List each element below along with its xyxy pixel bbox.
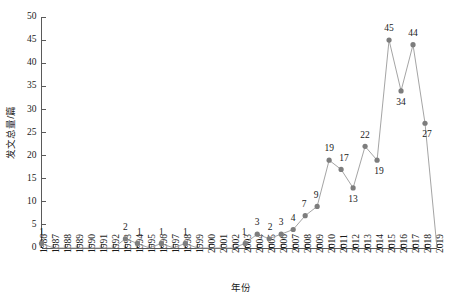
x-tick-label: 2013 [363,234,373,253]
x-tick-label: 1990 [87,234,97,253]
x-tick-label: 2000 [207,234,217,253]
series-data-point [123,236,128,241]
series-data-point [315,204,320,209]
data-point-value-label: 3 [255,217,260,227]
y-tick-label: 50 [27,11,37,21]
publication-count-line-chart: 05101520253035404550 1986198719881989199… [0,0,450,299]
y-tick-label: 10 [27,196,37,206]
x-tick-label: 2011 [339,234,349,253]
series-data-point [327,158,332,163]
data-point-value-label: 13 [348,194,358,204]
data-point-value-label: 17 [339,153,349,163]
data-point-value-label: 19 [374,166,384,176]
data-point-value-label: 44 [408,28,418,38]
series-data-point [303,213,308,218]
x-tick-label: 2018 [423,234,433,253]
x-tick-label: 2017 [411,234,421,253]
data-point-value-label: 9 [314,190,319,200]
y-tick-label: 40 [27,57,37,67]
x-tick-label: 1989 [75,234,85,253]
series-data-point [374,158,379,163]
data-point-value-label: 34 [396,97,406,107]
x-axis-title: 年份 [231,282,251,293]
series-data-point [255,232,260,237]
chart-background [0,0,450,299]
series-data-point [243,241,248,246]
series-data-point [279,232,284,237]
series-data-point [135,241,140,246]
x-tick-label: 2002 [231,234,241,253]
y-tick-label: 25 [27,127,37,137]
series-data-point [183,241,188,246]
series-data-point [339,167,344,172]
data-point-value-label: 2 [268,222,273,232]
x-tick-label: 1997 [171,234,181,253]
x-tick-label: 1988 [63,234,73,253]
data-point-value-label: 1 [39,227,44,237]
series-data-point [422,121,427,126]
data-point-value-label: 3 [279,217,284,227]
data-point-value-label: 1 [137,227,142,237]
y-tick-label: 5 [32,219,37,229]
data-point-value-label: 4 [291,213,296,223]
series-data-point [291,227,296,232]
y-tick-label: 45 [27,34,37,44]
series-data-point [351,185,356,190]
x-tick-label: 2006 [279,234,289,253]
x-tick-label: 2015 [387,234,397,253]
y-tick-label: 35 [27,80,37,90]
x-tick-label: 1999 [195,234,205,253]
y-tick-label: 15 [27,173,37,183]
series-data-point [362,144,367,149]
series-data-point [398,88,403,93]
series-data-point [410,42,415,47]
data-point-value-label: 2 [123,222,128,232]
y-axis-title: 发文总量/篇 [5,106,16,159]
x-tick-label: 2016 [399,234,409,253]
series-data-point [267,236,272,241]
x-tick-label: 2008 [303,234,313,253]
data-point-value-label: 1 [183,227,188,237]
data-point-value-label: 45 [384,23,394,33]
x-tick-label: 1995 [147,234,157,253]
data-point-value-label: 22 [360,130,370,140]
x-tick-label: 1991 [99,234,109,253]
x-tick-label: 2009 [315,234,325,253]
y-tick-label: 30 [27,104,37,114]
data-point-value-label: 19 [324,143,334,153]
y-tick-label: 20 [27,150,37,160]
series-data-point [39,241,44,246]
data-point-value-label: 1 [159,227,164,237]
x-tick-label: 1987 [51,234,61,253]
x-tick-label: 2007 [291,234,301,253]
x-tick-label: 2014 [375,234,385,253]
data-point-value-label: 1 [242,227,247,237]
y-tick-label: 0 [32,242,37,252]
chart-canvas: 05101520253035404550 1986198719881989199… [0,0,450,299]
data-point-value-label: 27 [422,129,432,139]
series-data-point [386,38,391,43]
data-point-value-label: 7 [302,199,307,209]
x-tick-label: 2012 [351,234,361,253]
x-tick-label: 2001 [219,234,229,253]
series-data-point [159,241,164,246]
x-tick-label: 2010 [327,234,337,253]
